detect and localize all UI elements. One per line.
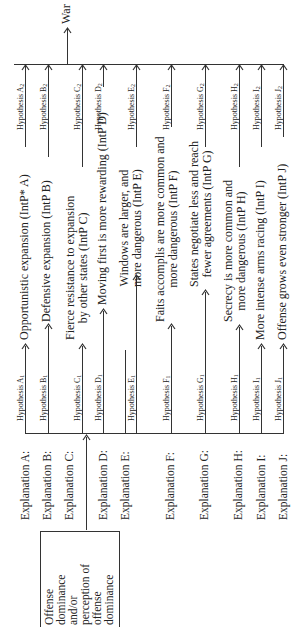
hypothesis-1-label: Hypothesis F1 (163, 376, 171, 421)
explanation-label: Explanation C: (63, 451, 75, 520)
arrowhead-icon (201, 288, 210, 296)
source-line: and/or (67, 535, 79, 625)
hypothesis-2-label: Hypothesis H2 (231, 83, 239, 130)
arrowhead-icon (99, 307, 108, 315)
source-box: Offense dominance and/or perception of o… (40, 531, 120, 627)
intervening-process: More intense arms racing (IntP I) (254, 180, 267, 340)
source-line: offense (91, 535, 103, 625)
hypothesis-1-label: Hypothesis G1 (197, 374, 205, 421)
intervening-process: Defensive expansion (IntP B) (40, 180, 53, 322)
arrowhead-icon (132, 63, 141, 71)
hypothesis-1-label: Hypothesis H1 (231, 374, 239, 421)
causal-diagram: Offense dominance and/or perception of o… (0, 0, 297, 627)
hypothesis-1-label: Hypothesis E1 (128, 375, 136, 421)
hypothesis-2-label: Hypothesis C2 (74, 84, 82, 130)
arrowhead-icon (257, 63, 266, 71)
hypothesis-2-label: Hypothesis G2 (197, 83, 205, 130)
intervening-process: Opportunistic expansion (IntP* A) (18, 174, 31, 340)
source-line: dominance (55, 535, 67, 625)
hypothesis-2-label: Hypothesis A2 (17, 84, 25, 130)
hypothesis-2-label: Hypothesis D2 (95, 83, 103, 130)
source-line: perception of (79, 535, 91, 625)
hypothesis-2-label: Hypothesis E2 (128, 84, 136, 130)
hypothesis-2-label: Hypothesis F2 (163, 85, 171, 130)
hypothesis-1-label: Hypothesis D1 (95, 374, 103, 421)
intervening-process: States negotiate less and reachfewer agr… (188, 141, 213, 287)
explanation-label: Explanation H: (232, 450, 244, 520)
source-line: Offense (43, 535, 55, 625)
source-line: dominance (103, 535, 115, 625)
arrowhead-icon (201, 63, 210, 71)
arrowhead-icon (167, 322, 176, 330)
explanation-label: Explanation G: (198, 450, 210, 520)
intervening-process: Faits accomplis are more common andmore … (154, 136, 179, 322)
intervening-process: Moving first is more rewarding (IntP D) (96, 112, 109, 305)
h1-arrow (125, 350, 126, 434)
war-connector (67, 29, 68, 65)
explanation-label: Explanation E: (119, 451, 131, 520)
intervening-process: Windows are larger, andmore dangerous (I… (118, 169, 143, 287)
arrowhead-icon (63, 26, 72, 34)
intervening-process: Offense grows even stronger (IntP J) (276, 164, 289, 340)
arrowhead-icon (279, 63, 288, 71)
arrowhead-icon (279, 342, 288, 350)
arrowhead-icon (44, 322, 53, 330)
arrowhead-icon (167, 63, 176, 71)
intervening-process: Fierce resistance to expansionby other s… (64, 196, 89, 340)
hypothesis-1-label: Hypothesis J1 (275, 377, 283, 421)
hypothesis-2-label: Hypothesis I2 (253, 86, 261, 130)
distribution-bar (25, 433, 284, 434)
arrowhead-icon (78, 63, 87, 71)
hypothesis-1-label: Hypothesis C1 (74, 375, 82, 421)
explanation-label: Explanation A: (19, 451, 31, 520)
explanation-label: Explanation D: (97, 450, 109, 520)
hypothesis-1-label: Hypothesis A1 (17, 375, 25, 421)
arrowhead-icon (235, 63, 244, 71)
explanation-label: Explanation B: (41, 451, 53, 520)
outcome-label: War (60, 4, 73, 24)
hypothesis-1-label: Hypothesis B1 (40, 375, 48, 421)
explanation-label: Explanation J: (277, 454, 289, 520)
explanation-label: Explanation I: (255, 455, 267, 520)
arrowhead-icon (99, 63, 108, 71)
arrowhead-icon (82, 433, 91, 441)
arrowhead-icon (44, 63, 53, 71)
arrowhead-icon (78, 342, 87, 350)
source-connector (86, 437, 87, 530)
hypothesis-1-label: Hypothesis I1 (253, 377, 261, 421)
arrowhead-icon (257, 342, 266, 350)
arrowhead-icon (21, 63, 30, 71)
explanation-label: Explanation F: (164, 452, 176, 520)
hypothesis-2-label: Hypothesis J2 (275, 86, 283, 130)
hypothesis-2-label: Hypothesis B2 (40, 84, 48, 130)
arrowhead-icon (235, 323, 244, 331)
intervening-process: Secrecy is more common andmore dangerous… (222, 180, 247, 322)
arrowhead-icon (21, 342, 30, 350)
